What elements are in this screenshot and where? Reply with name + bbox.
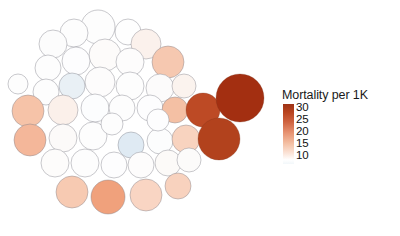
bubble bbox=[14, 124, 46, 156]
colorbar-tick: 10 bbox=[296, 150, 308, 161]
bubble bbox=[56, 176, 88, 208]
bubble bbox=[8, 74, 28, 94]
colorbar-gradient bbox=[283, 104, 294, 164]
bubble bbox=[128, 152, 154, 178]
bubble bbox=[48, 95, 78, 125]
colorbar-tick-labels: 3025201510 bbox=[296, 102, 336, 166]
bubble bbox=[177, 148, 201, 172]
bubble bbox=[130, 179, 162, 211]
bubble bbox=[198, 118, 240, 160]
bubble bbox=[165, 173, 191, 199]
bubble bbox=[152, 46, 184, 78]
bubble bbox=[12, 95, 44, 127]
bubble bbox=[41, 149, 69, 177]
bubble bbox=[91, 180, 125, 214]
colorbar-tick: 30 bbox=[296, 102, 308, 113]
legend-title: Mortality per 1K bbox=[282, 88, 368, 102]
legend: Mortality per 1K 3025201510 bbox=[280, 88, 398, 173]
bubble bbox=[39, 30, 67, 58]
bubble bbox=[89, 39, 121, 71]
bubble-chart-figure: Mortality per 1K 3025201510 bbox=[0, 0, 400, 236]
bubble bbox=[71, 149, 99, 177]
bubble bbox=[49, 124, 77, 152]
bubble bbox=[85, 67, 115, 97]
bubble bbox=[172, 74, 196, 98]
bubble bbox=[62, 47, 90, 75]
colorbar-tick: 25 bbox=[296, 114, 308, 125]
colorbar bbox=[283, 104, 294, 164]
bubble bbox=[101, 113, 123, 135]
bubble bbox=[35, 55, 61, 81]
colorbar-tick: 20 bbox=[296, 126, 308, 137]
bubble bbox=[101, 152, 127, 178]
bubble bbox=[216, 74, 264, 122]
colorbar-tick: 15 bbox=[296, 138, 308, 149]
bubble bbox=[147, 109, 169, 131]
